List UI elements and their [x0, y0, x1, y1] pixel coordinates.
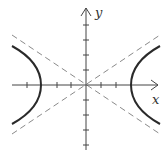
- hyperbola-plot: y x: [0, 0, 166, 152]
- y-axis-label: y: [94, 5, 103, 20]
- x-axis-label: x: [152, 92, 160, 107]
